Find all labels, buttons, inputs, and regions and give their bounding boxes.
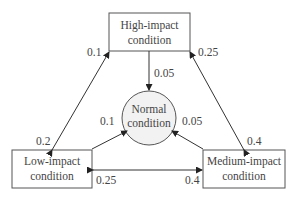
node-low-impact: Low-impact condition bbox=[12, 150, 92, 188]
edge-low-high bbox=[52, 52, 109, 150]
node-medium-impact: Medium-impact condition bbox=[203, 150, 285, 188]
node-medium-line1: Medium-impact bbox=[207, 155, 282, 168]
label-low-to-normal: 0.1 bbox=[100, 115, 115, 127]
node-normal-line2: condition bbox=[127, 117, 171, 129]
state-transition-diagram: High-impact condition Normal condition L… bbox=[0, 0, 298, 201]
edge-medium-high bbox=[190, 52, 244, 150]
label-high-to-normal: 0.05 bbox=[154, 67, 174, 79]
label-medium-to-normal: 0.05 bbox=[182, 115, 202, 127]
node-low-line1: Low-impact bbox=[24, 155, 81, 168]
node-high-line1: High-impact bbox=[120, 19, 179, 32]
node-high-impact: High-impact condition bbox=[109, 13, 190, 51]
node-normal-line1: Normal bbox=[131, 103, 166, 115]
node-low-line2: condition bbox=[30, 170, 74, 182]
label-high-to-low: 0.2 bbox=[36, 135, 51, 147]
label-low-to-medium: 0.4 bbox=[185, 174, 200, 186]
node-high-line2: condition bbox=[128, 34, 172, 46]
node-medium-line2: condition bbox=[222, 170, 266, 182]
label-high-to-medium: 0.4 bbox=[247, 135, 262, 147]
node-normal: Normal condition bbox=[122, 91, 176, 145]
label-medium-to-low: 0.25 bbox=[96, 174, 116, 186]
label-low-to-high: 0.1 bbox=[87, 46, 102, 58]
label-medium-to-high: 0.25 bbox=[198, 46, 218, 58]
edge-low-to-normal bbox=[92, 131, 127, 149]
edge-medium-to-normal bbox=[172, 131, 203, 149]
